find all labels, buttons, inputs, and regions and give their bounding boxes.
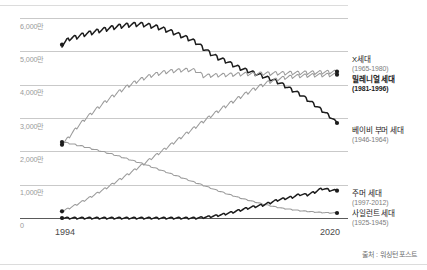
source-attribution: 출처 : 워싱턴 포스트	[362, 249, 417, 259]
generation-population-chart: 6,000만5,000만4,000만3,000만2,000만1,000만0 19…	[0, 0, 427, 270]
series-line	[62, 188, 337, 219]
series-endpoint-dot	[60, 209, 64, 213]
series-endpoint-dot	[60, 43, 64, 47]
legend-item[interactable]: 밀레니얼 세대(1981-1996)	[352, 75, 395, 94]
legend-item-name: X세대	[352, 55, 388, 64]
series-endpoint-dot	[335, 121, 339, 125]
bottom-divider	[0, 264, 427, 265]
series-endpoint-dot	[60, 216, 64, 220]
legend-item-name: 주머 세대	[352, 189, 388, 198]
legend-item-name: 밀레니얼 세대	[352, 75, 395, 84]
legend-item[interactable]: 사일런트 세대(1925-1945)	[352, 209, 395, 228]
legend-item[interactable]: 주머 세대(1997-2012)	[352, 189, 388, 208]
x-axis-tick-2020: 2020	[320, 227, 340, 237]
legend-item-range: (1997-2012)	[352, 198, 388, 207]
series-line	[62, 73, 337, 212]
legend-item-name: 사일런트 세대	[352, 209, 395, 218]
legend-item[interactable]: 베이비 부머 세대(1946-1964)	[352, 126, 404, 145]
legend-item[interactable]: X세대(1965-1980)	[352, 55, 388, 74]
legend-item-range: (1981-1996)	[352, 84, 395, 93]
legend-item-range: (1946-1964)	[352, 135, 404, 144]
series-endpoint-dot	[60, 140, 64, 144]
series-line	[62, 142, 337, 213]
legend-item-name: 베이비 부머 세대	[352, 126, 404, 135]
x-axis-tick-1994: 1994	[55, 227, 75, 237]
series-line	[62, 68, 337, 146]
series-endpoint-dot	[335, 73, 339, 77]
series-endpoint-dot	[335, 189, 339, 193]
legend-item-range: (1965-1980)	[352, 64, 388, 73]
legend-item-range: (1925-1945)	[352, 218, 395, 227]
series-endpoint-dot	[335, 211, 339, 215]
